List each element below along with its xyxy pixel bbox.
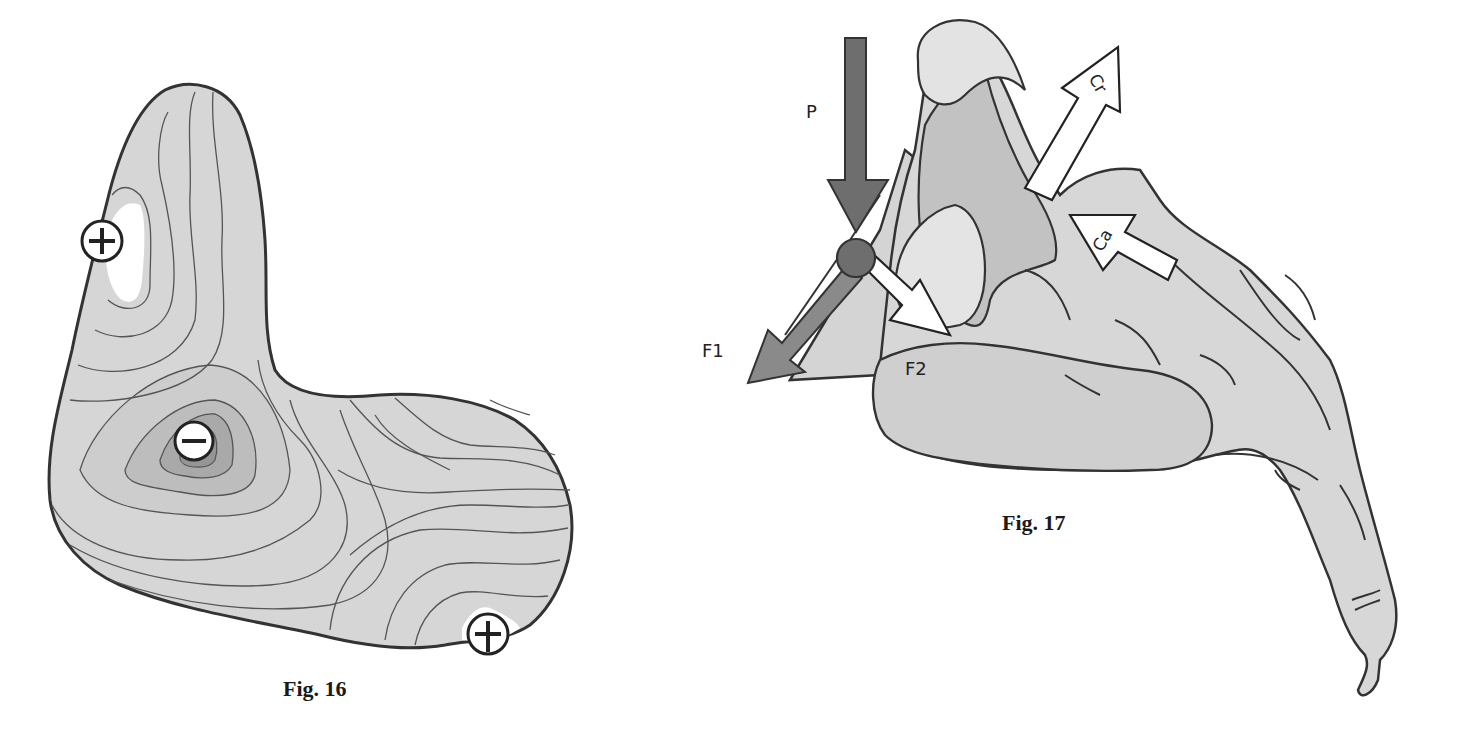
contour-map bbox=[0, 0, 700, 738]
label-f1: F1 bbox=[702, 340, 724, 361]
figure-16-caption: Fig. 16 bbox=[283, 676, 347, 702]
pivot-point bbox=[837, 239, 875, 277]
figure-17-caption: Fig. 17 bbox=[1002, 510, 1066, 536]
label-f2: F2 bbox=[905, 358, 927, 379]
arrow-p bbox=[828, 38, 888, 232]
plus-marker-top bbox=[82, 221, 122, 261]
foot-bone-force-diagram: Cr Ca P F1 F2 bbox=[700, 0, 1460, 738]
figure-17: Cr Ca P F1 F2 Fig. 17 bbox=[700, 0, 1460, 738]
figure-16: Fig. 16 bbox=[0, 0, 700, 738]
minus-marker-center bbox=[175, 422, 213, 460]
label-p: P bbox=[806, 101, 817, 122]
plus-marker-bottom bbox=[468, 614, 508, 654]
